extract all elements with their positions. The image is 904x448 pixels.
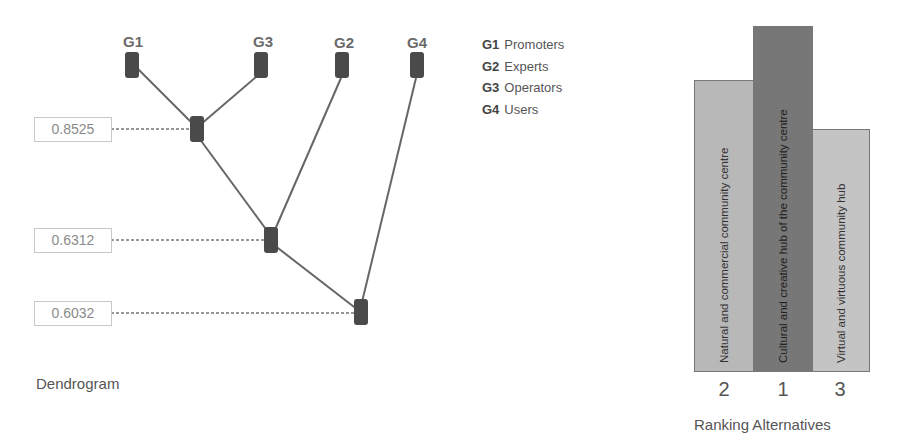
- ranking-bar-virtual-virtuous: Virtual and virtuous community hub: [812, 129, 870, 372]
- rank-label: 2: [718, 378, 729, 401]
- merge-node-1: [190, 116, 204, 142]
- rank-label: 1: [777, 378, 788, 401]
- leaf-label-g4: G4: [407, 34, 427, 51]
- ranking-bar-cultural-creative: Cultural and creative hub of the communi…: [753, 26, 813, 372]
- similarity-value-2: 0.6312: [34, 228, 112, 253]
- similarity-value-1: 0.8525: [34, 117, 112, 142]
- legend-item-g1: G1Promoters: [482, 34, 564, 56]
- legend-item-g4: G4Users: [482, 99, 564, 121]
- leaf-node-g3: [254, 52, 268, 78]
- bar-label: Natural and commercial community centre: [718, 148, 730, 363]
- leaf-label-g3: G3: [253, 33, 273, 50]
- bar-label: Virtual and virtuous community hub: [835, 184, 847, 363]
- ranking-bar-natural-commercial: Natural and commercial community centre: [694, 80, 754, 372]
- bar-label: Cultural and creative hub of the communi…: [777, 109, 789, 363]
- rank-label: 3: [834, 378, 845, 401]
- merge-node-2: [264, 227, 278, 253]
- leaf-node-g2: [335, 52, 349, 78]
- leaf-label-g2: G2: [334, 34, 354, 51]
- leaf-node-g1: [125, 52, 139, 78]
- dendrogram-title: Dendrogram: [36, 375, 119, 392]
- legend-item-g2: G2Experts: [482, 56, 564, 78]
- leaf-label-g1: G1: [123, 33, 143, 50]
- merge-node-3: [354, 299, 368, 325]
- group-legend: G1Promoters G2Experts G3Operators G4User…: [482, 34, 564, 120]
- ranking-title: Ranking Alternatives: [694, 416, 831, 433]
- legend-item-g3: G3Operators: [482, 77, 564, 99]
- similarity-value-3: 0.6032: [34, 301, 112, 326]
- leaf-node-g4: [410, 52, 424, 78]
